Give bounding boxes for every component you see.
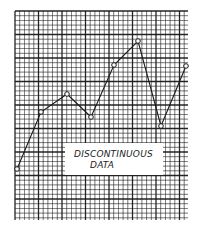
data-point [39,110,44,115]
data-point [15,167,20,172]
grid-lines [15,11,188,220]
annotation-line-1: DISCONTINUOUS [74,149,153,159]
data-point [184,64,189,69]
line-chart [0,0,199,227]
data-point [112,63,117,68]
data-point [89,115,94,120]
annotation-box: DISCONTINUOUS DATA [65,143,163,175]
annotation-line-2: DATA [90,160,114,170]
data-point [159,124,164,129]
data-point [65,92,70,97]
data-point [136,39,141,44]
